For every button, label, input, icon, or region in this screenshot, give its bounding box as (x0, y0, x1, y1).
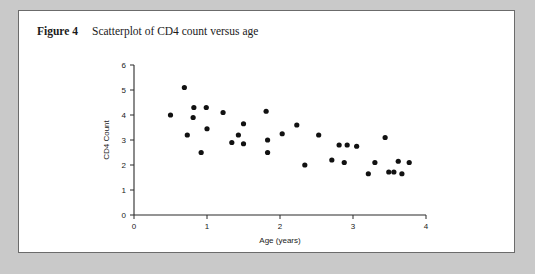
data-point (191, 115, 196, 120)
data-point (372, 160, 377, 165)
y-axis-ticks: 0123456 (122, 61, 134, 220)
data-point (236, 132, 241, 137)
data-point (329, 157, 334, 162)
data-point (280, 131, 285, 136)
data-point (204, 126, 209, 131)
x-tick-label: 0 (132, 222, 137, 231)
y-axis-title: CD4 Count (102, 119, 111, 159)
y-tick-label: 0 (122, 211, 127, 220)
data-point (391, 169, 396, 174)
y-tick-label: 2 (122, 161, 127, 170)
data-point (354, 144, 359, 149)
data-point (182, 85, 187, 90)
x-tick-label: 3 (351, 222, 356, 231)
scatterplot: 0123456 01234 CD4 Count Age (years) (19, 11, 516, 254)
data-point (199, 150, 204, 155)
data-point (316, 132, 321, 137)
x-tick-label: 2 (278, 222, 283, 231)
y-tick-label: 5 (122, 86, 127, 95)
y-tick-label: 6 (122, 61, 127, 70)
data-point (265, 137, 270, 142)
data-point (383, 135, 388, 140)
y-tick-label: 4 (122, 111, 127, 120)
data-point (185, 132, 190, 137)
data-point (229, 140, 234, 145)
data-point (342, 160, 347, 165)
data-point (399, 171, 404, 176)
plot-axes (134, 65, 426, 215)
data-point (220, 110, 225, 115)
data-point (204, 105, 209, 110)
data-points (168, 85, 412, 176)
data-point (407, 160, 412, 165)
data-point (345, 142, 350, 147)
data-point (191, 105, 196, 110)
data-point (396, 159, 401, 164)
data-point (241, 141, 246, 146)
x-tick-label: 4 (424, 222, 429, 231)
data-point (265, 150, 270, 155)
x-axis-title: Age (years) (259, 236, 301, 245)
data-point (241, 121, 246, 126)
data-point (294, 122, 299, 127)
data-point (264, 109, 269, 114)
y-tick-label: 1 (122, 186, 127, 195)
figure-card: Figure 4Scatterplot of CD4 count versus … (18, 10, 515, 253)
data-point (168, 112, 173, 117)
x-axis-ticks: 01234 (132, 215, 429, 231)
scatterplot-svg: 0123456 01234 CD4 Count Age (years) (19, 11, 516, 254)
data-point (366, 171, 371, 176)
data-point (386, 169, 391, 174)
x-tick-label: 1 (205, 222, 210, 231)
y-tick-label: 3 (122, 136, 127, 145)
data-point (337, 142, 342, 147)
data-point (302, 162, 307, 167)
